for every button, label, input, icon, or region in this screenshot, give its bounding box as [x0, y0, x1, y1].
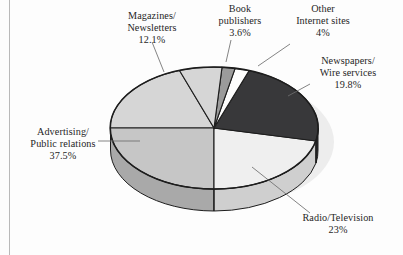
- pie-label-radio-value: 23%: [277, 224, 399, 236]
- pie-label-book-value: 3.6%: [202, 27, 278, 39]
- leader-line-other: [258, 44, 290, 66]
- pie-label-advertising-line2: Public relations: [8, 138, 118, 150]
- pie-label-other-value: 4%: [277, 27, 369, 39]
- pie-label-newspapers-value: 19.8%: [296, 79, 400, 91]
- pie-label-other-line2: Internet sites: [277, 15, 369, 27]
- pie-label-magazines-newsletters: Magazines/ Newsletters 12.1%: [104, 10, 200, 45]
- pie-label-book-line1: Book: [202, 3, 278, 15]
- pie-top-face: [110, 67, 318, 189]
- pie-label-magazines-line2: Newsletters: [104, 22, 200, 34]
- leader-line-magazines: [152, 42, 164, 72]
- pie-label-book-line2: publishers: [202, 15, 278, 27]
- pie-chart-figure: Magazines/ Newsletters 12.1% Book publis…: [0, 0, 403, 255]
- pie-label-newspapers-wire-services: Newspapers/ Wire services 19.8%: [296, 55, 400, 90]
- leader-line-book: [226, 40, 231, 62]
- pie-label-book-publishers: Book publishers 3.6%: [202, 3, 278, 38]
- pie-label-advertising-line1: Advertising/: [8, 126, 118, 138]
- pie-label-radio-television: Radio/Television 23%: [277, 212, 399, 236]
- pie-label-newspapers-line1: Newspapers/: [296, 55, 400, 67]
- pie-label-magazines-line1: Magazines/: [104, 10, 200, 22]
- pie-label-radio-line1: Radio/Television: [277, 212, 399, 224]
- pie-label-newspapers-line2: Wire services: [296, 67, 400, 79]
- pie-label-other-internet-sites: Other Internet sites 4%: [277, 3, 369, 38]
- pie-label-advertising-value: 37.5%: [8, 150, 118, 162]
- pie-label-advertising-public-relations: Advertising/ Public relations 37.5%: [8, 126, 118, 161]
- pie-label-magazines-value: 12.1%: [104, 34, 200, 46]
- pie-label-other-line1: Other: [277, 3, 369, 15]
